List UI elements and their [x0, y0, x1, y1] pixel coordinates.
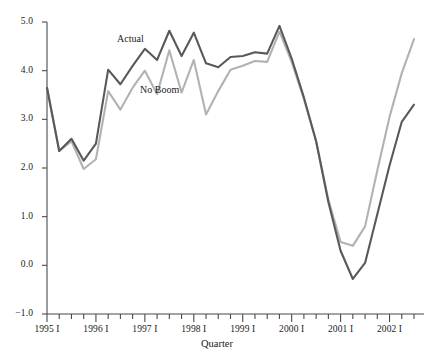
y-tick-label: 3.0 [5, 113, 33, 123]
x-tick-label: 1999 I [221, 324, 265, 334]
x-axis-ticks [47, 314, 414, 322]
x-axis-title: Quarter [0, 338, 434, 349]
x-tick-label: 2000 I [270, 324, 314, 334]
y-tick-label: 4.0 [5, 65, 33, 75]
y-tick-label: −1.0 [5, 308, 33, 318]
line-chart: −1.00.01.02.03.04.05.0 1995 I1996 I1997 … [0, 0, 434, 359]
x-tick-label: 1996 I [74, 324, 118, 334]
y-axis-ticks [42, 22, 47, 314]
y-tick-label: 5.0 [5, 16, 33, 26]
data-series-group [47, 26, 414, 279]
y-tick-label: 1.0 [5, 211, 33, 221]
x-tick-label: 1998 I [172, 324, 216, 334]
axes [47, 22, 424, 314]
x-tick-label: 2001 I [319, 324, 363, 334]
series-line-actual [47, 26, 414, 279]
plot-area [0, 0, 434, 359]
x-tick-label: 1995 I [25, 324, 69, 334]
y-tick-label: 0.0 [5, 259, 33, 269]
series-label-actual: Actual [117, 33, 144, 44]
x-tick-label: 2002 I [368, 324, 412, 334]
series-line-no-boom [47, 32, 414, 246]
x-tick-label: 1997 I [123, 324, 167, 334]
y-tick-label: 2.0 [5, 162, 33, 172]
series-label-no-boom: No Boom [140, 84, 179, 95]
